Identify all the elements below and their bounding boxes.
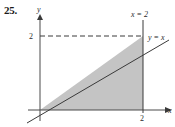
annotation-y-equals-x: y = x bbox=[147, 33, 165, 42]
x-tick-label-2: 2 bbox=[140, 114, 144, 123]
y-axis-arrow-icon bbox=[37, 14, 43, 20]
x-axis-label: x bbox=[167, 106, 172, 115]
annotation-x-equals-2: x = 2 bbox=[130, 10, 148, 19]
figure-container: 25. y x 2 2 x = 2 y = x bbox=[0, 0, 175, 127]
shaded-region bbox=[40, 36, 143, 110]
y-axis-label: y bbox=[36, 5, 41, 14]
y-tick-label-2: 2 bbox=[29, 32, 33, 41]
diagonal-line-y-equals-x bbox=[27, 40, 169, 123]
plot-svg: y x 2 2 x = 2 y = x bbox=[0, 0, 175, 127]
